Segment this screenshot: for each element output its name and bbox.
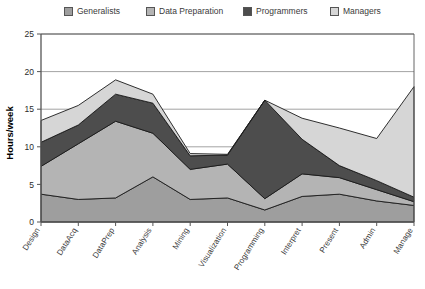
y-tick-label: 5 (29, 180, 34, 190)
plot-area-container: 0510152025 DesignDataAcqDataPrepAnalysis… (0, 0, 425, 289)
x-tick-label: Present (318, 226, 341, 255)
stacked-area-chart: Generalists Data Preparation Programmers… (0, 0, 425, 289)
x-tick-label: Mining (171, 226, 191, 251)
y-tick-labels: 0510152025 (25, 29, 41, 227)
y-tick-label: 15 (25, 104, 35, 114)
y-tick-label: 25 (25, 29, 35, 39)
x-tick-label: Programming (232, 226, 265, 271)
x-tick-label: Manage (392, 226, 415, 256)
y-tick-label: 20 (25, 67, 35, 77)
x-tick-label: Visualization (197, 226, 228, 269)
x-tick-labels: DesignDataAcqDataPrepAnalysisMiningVisua… (21, 222, 415, 272)
x-tick-label: Interpret (279, 226, 303, 257)
x-tick-label: DataPrep (91, 226, 117, 260)
area-series-group (41, 80, 414, 222)
y-axis-label: Hours/week (4, 106, 15, 160)
y-tick-label: 0 (29, 217, 34, 227)
x-tick-label: Design (21, 226, 42, 252)
y-tick-label: 10 (25, 142, 35, 152)
x-tick-label: Analysis (130, 226, 153, 256)
x-tick-label: Admin (358, 226, 378, 250)
plot-svg: 0510152025 DesignDataAcqDataPrepAnalysis… (0, 0, 425, 289)
x-tick-label: DataAcq (55, 226, 79, 257)
